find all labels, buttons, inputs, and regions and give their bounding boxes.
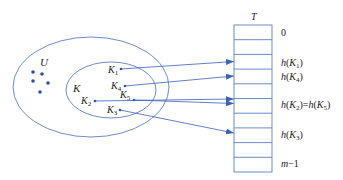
hash-table	[234, 25, 272, 172]
row-label-hk3: h(K3)	[281, 129, 303, 142]
row-label-hk1: h(K1)	[281, 57, 303, 70]
key-k2-label: K2	[80, 95, 92, 108]
table-title: T	[251, 11, 258, 22]
universe-set-ellipse	[13, 37, 169, 137]
row-label-hk4: h(K4)	[281, 71, 303, 84]
arrow-k5	[134, 100, 234, 104]
key-k1-label: K1	[107, 64, 119, 77]
row-label-0: 0	[281, 27, 286, 38]
row-label-m-minus-1: m−1	[281, 158, 299, 169]
key-k5-label: K5	[119, 89, 131, 102]
arrow-k4	[125, 76, 234, 86]
row-label-hk2-hk5: h(K2)=h(K5)	[281, 99, 330, 112]
keyset-label: K	[72, 82, 81, 94]
hash-table-diagram: U K K1 K4 K5 K2 K3 T	[0, 0, 343, 180]
universe-label: U	[40, 56, 49, 68]
arrow-k1	[121, 62, 234, 70]
universe-elements-dots	[31, 70, 50, 94]
key-k3-label: K3	[106, 104, 118, 117]
arrow-k3	[120, 110, 234, 133]
